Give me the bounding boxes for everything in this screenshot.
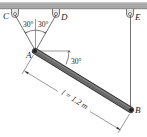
dimension-label: l = 1.2 m <box>60 88 90 111</box>
label-a: A <box>25 50 32 60</box>
angle-label-rod: 30° <box>71 57 82 66</box>
statics-diagram: C D E A B 30° 30° 30° l = 1.2 m <box>0 0 147 137</box>
joint-a <box>33 49 37 53</box>
pin-support-e <box>127 9 134 18</box>
ceiling <box>0 2 147 9</box>
label-b: B <box>135 105 141 115</box>
angle-label-left: 30° <box>23 20 34 29</box>
label-e: E <box>134 12 141 22</box>
joint-b <box>129 108 133 112</box>
pin-support-d <box>53 9 60 17</box>
pin-support-c <box>12 9 19 18</box>
diagram-canvas: C D E A B 30° 30° 30° l = 1.2 m <box>0 0 147 137</box>
angle-label-right: 30° <box>38 20 49 29</box>
label-c: C <box>3 11 10 21</box>
label-d: D <box>60 12 68 22</box>
